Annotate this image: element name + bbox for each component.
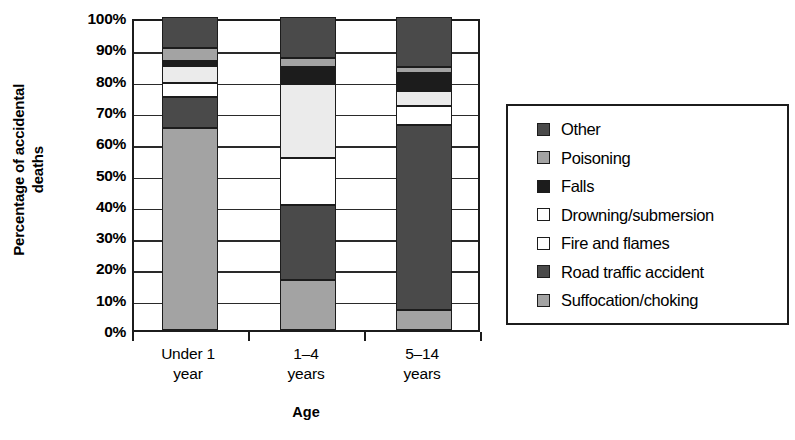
x-axis-category-label: 1–4years (246, 344, 366, 384)
bar-stack[interactable] (280, 21, 336, 330)
x-axis-tick-mark (248, 332, 250, 341)
bar-segment[interactable] (280, 67, 336, 84)
bar-segment[interactable] (280, 205, 336, 280)
x-axis-category-label-line-1: 1–4 (246, 344, 366, 364)
x-axis-tick-mark (480, 332, 482, 341)
legend-swatch-icon (537, 237, 550, 250)
bar-segment[interactable] (162, 66, 218, 83)
bar-segment[interactable] (396, 73, 452, 90)
x-axis-tick-marks (132, 332, 482, 342)
x-axis-category-label-line-1: Under 1 (128, 344, 248, 364)
bar-stack[interactable] (396, 21, 452, 330)
x-axis-category-label-line-2: years (246, 364, 366, 384)
x-axis-tick-mark (364, 332, 366, 341)
bar-segment[interactable] (280, 158, 336, 205)
bar-stack[interactable] (162, 21, 218, 330)
bar-segment[interactable] (280, 17, 336, 58)
bar-segment[interactable] (396, 91, 452, 107)
y-axis-tick-label: 40% (96, 199, 126, 215)
legend-swatch-icon (537, 151, 550, 164)
y-axis-tick-label: 10% (96, 293, 126, 309)
y-axis-tick-label: 80% (96, 74, 126, 90)
y-axis-tick-labels: 0%10%20%30%40%50%60%70%80%90%100% (58, 0, 132, 345)
chart-legend: OtherPoisoningFallsDrowning/submersionFi… (506, 104, 789, 325)
legend-item-label: Falls (561, 178, 594, 195)
legend-swatch-icon (537, 208, 550, 221)
legend-item-label: Suffocation/choking (561, 292, 698, 309)
bar-segment[interactable] (162, 17, 218, 48)
y-axis-tick-label: 60% (96, 136, 126, 152)
x-axis-tick-mark (132, 332, 134, 341)
y-axis-title-line-2: deaths (29, 84, 48, 256)
bar-segment[interactable] (280, 84, 336, 158)
legend-item-label: Road traffic accident (561, 264, 704, 281)
bar-segment[interactable] (396, 17, 452, 67)
legend-item[interactable]: Other (508, 115, 787, 144)
bar-segment[interactable] (162, 97, 218, 128)
bar-segment[interactable] (162, 128, 218, 330)
plot-area (132, 19, 480, 332)
legend-item-label: Poisoning (561, 150, 630, 167)
y-axis-tick-label: 100% (88, 11, 126, 27)
bar-segment[interactable] (396, 106, 452, 125)
legend-item[interactable]: Fire and flames (508, 229, 787, 258)
y-axis-title: Percentage of accidental deaths (0, 0, 58, 340)
legend-item[interactable]: Suffocation/choking (508, 286, 787, 315)
legend-item[interactable]: Falls (508, 172, 787, 201)
y-axis-tick-label: 70% (96, 105, 126, 121)
bar-segment[interactable] (396, 310, 452, 330)
bar-segment[interactable] (280, 58, 336, 67)
legend-swatch-icon (537, 294, 550, 307)
y-axis-tick-label: 0% (104, 324, 126, 340)
bar-segment[interactable] (162, 48, 218, 61)
x-axis-category-label-line-1: 5–14 (362, 344, 482, 364)
bar-segment[interactable] (396, 125, 452, 310)
legend-item[interactable]: Drowning/submersion (508, 201, 787, 230)
bar-segment[interactable] (162, 83, 218, 97)
y-axis-tick-label: 20% (96, 262, 126, 278)
legend-swatch-icon (537, 265, 550, 278)
legend-item-label: Fire and flames (561, 235, 669, 252)
legend-item[interactable]: Road traffic accident (508, 258, 787, 287)
legend-item-label: Other (561, 121, 601, 138)
x-axis-category-label-line-2: years (362, 364, 482, 384)
chart-figure: Percentage of accidental deaths 0%10%20%… (0, 0, 795, 440)
x-axis-category-label-line-2: year (128, 364, 248, 384)
x-axis-category-label: 5–14years (362, 344, 482, 384)
legend-item[interactable]: Poisoning (508, 144, 787, 173)
plot-right-border (478, 19, 480, 332)
y-axis-tick-label: 50% (96, 168, 126, 184)
bar-segment[interactable] (280, 280, 336, 330)
bar-segment[interactable] (162, 61, 218, 66)
legend-swatch-icon (537, 180, 550, 193)
legend-item-label: Drowning/submersion (561, 207, 714, 224)
y-axis-tick-label: 90% (96, 43, 126, 59)
y-axis-tick-label: 30% (96, 230, 126, 246)
bar-segment[interactable] (396, 67, 452, 73)
y-axis-title-line-1: Percentage of accidental (10, 84, 29, 256)
x-axis-title: Age (132, 404, 480, 420)
x-axis-category-label: Under 1year (128, 344, 248, 384)
legend-swatch-icon (537, 123, 550, 136)
